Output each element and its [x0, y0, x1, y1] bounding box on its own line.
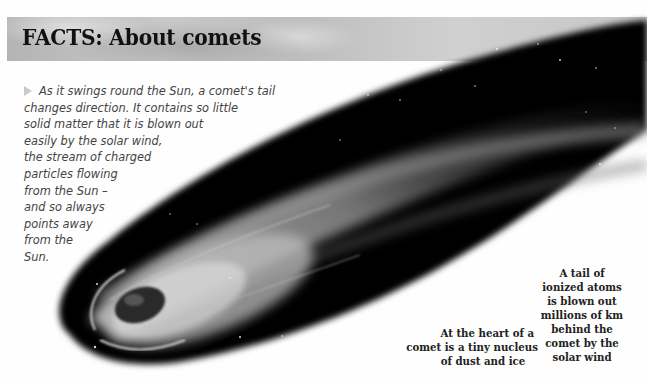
nucleus-caption: At the heart of a comet is a tiny nucleu…: [398, 326, 538, 368]
tail-caption: A tail of ionized atoms is blown out mil…: [532, 266, 632, 364]
page-title: FACTS: About comets: [22, 23, 262, 50]
intro-line-8: points away: [24, 216, 264, 233]
intro-paragraph: As it swings round the Sun, a comet's ta…: [24, 83, 264, 266]
intro-line-3: easily by the solar wind,: [24, 133, 264, 150]
intro-line-2: solid matter that it is blown out: [24, 116, 264, 133]
intro-line-1: changes direction. It contains so little: [24, 100, 264, 117]
intro-line-9: from the: [24, 232, 264, 249]
intro-line-7: and so always: [24, 199, 264, 216]
intro-line-4: the stream of charged: [24, 149, 264, 166]
triangle-right-icon: [24, 86, 32, 96]
intro-line-5: particles flowing: [24, 166, 264, 183]
intro-line-10: Sun.: [24, 249, 264, 266]
intro-line-6: from the Sun –: [24, 183, 264, 200]
intro-line-0: As it swings round the Sun, a comet's ta…: [24, 83, 264, 100]
